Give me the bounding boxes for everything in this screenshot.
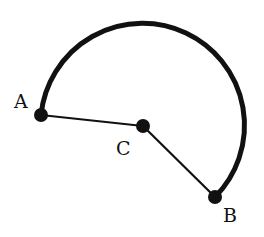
arc-A-to-B xyxy=(41,23,244,197)
point-B xyxy=(208,190,222,204)
segment-C-B xyxy=(143,126,215,197)
segment-A-C xyxy=(41,115,143,126)
point-C xyxy=(136,119,150,133)
label-A: A xyxy=(13,90,28,112)
label-C: C xyxy=(116,137,131,159)
diagram-canvas: A C B xyxy=(0,0,264,237)
label-B: B xyxy=(223,204,237,226)
point-A xyxy=(34,108,48,122)
sector-diagram: A C B xyxy=(0,0,264,237)
